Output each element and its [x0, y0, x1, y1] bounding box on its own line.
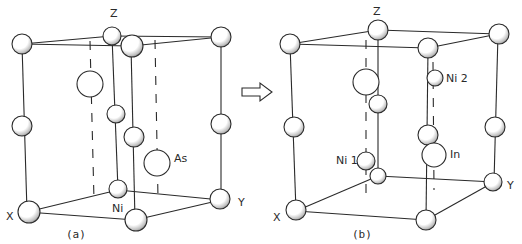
atom-a-top-left — [12, 34, 32, 54]
atom-b-bottom-left — [286, 200, 306, 220]
atom-b-mid-back — [369, 95, 387, 113]
atom-b-ni2 — [427, 70, 443, 86]
panel-a: Z X Y Ni As (a) — [6, 7, 245, 241]
atom-b-mid-right — [485, 117, 505, 137]
atom-b-open-upper — [353, 69, 379, 95]
atom-b-ni1 — [357, 152, 375, 170]
atom-a-bottom-left — [18, 201, 40, 223]
axis-label-y-b: Y — [506, 179, 514, 192]
crystal-structure-figure: Z X Y Ni As (a) — [0, 0, 522, 244]
atom-label-ni2-b: Ni 2 — [446, 72, 468, 85]
caption-b: (b) — [352, 228, 372, 241]
atom-label-in-b: In — [450, 148, 460, 161]
axis-label-y-a: Y — [237, 196, 245, 209]
panel-b: Z X Y Ni 2 Ni 1 In (b) — [273, 5, 514, 241]
atom-label-as-a: As — [174, 152, 188, 165]
atom-a-ni — [109, 180, 127, 198]
atom-a-mid-right — [211, 114, 231, 134]
atom-a-top-front — [121, 35, 143, 57]
atom-a-as — [144, 150, 170, 176]
atom-b-in — [422, 143, 446, 167]
atom-a-mid-left — [12, 116, 32, 136]
atom-b-top-back — [368, 20, 388, 40]
atom-a-bottom-right — [210, 189, 230, 209]
atom-b-top-right — [489, 24, 509, 44]
atom-a-top-back — [103, 27, 121, 45]
atom-b-mid-front — [418, 125, 438, 145]
axis-label-x-a: X — [6, 210, 14, 223]
atom-b-bottom-right — [484, 173, 502, 191]
atom-b-top-front — [418, 38, 438, 58]
axis-label-z-b: Z — [373, 5, 381, 18]
atom-b-bottom-back — [370, 168, 386, 184]
atom-label-ni1-b: Ni 1 — [336, 154, 358, 167]
atom-a-bottom-front — [125, 209, 147, 231]
atom-a-as-upper — [77, 71, 103, 97]
atom-b-mid-left — [284, 117, 304, 137]
atom-b-top-left — [280, 34, 300, 54]
atom-a-top-right — [211, 27, 231, 47]
atom-a-mid-front — [124, 127, 144, 147]
caption-a: (a) — [66, 228, 86, 241]
axis-label-z-a: Z — [110, 7, 118, 20]
atom-a-mid-back — [107, 105, 125, 123]
right-arrow-icon — [242, 83, 272, 101]
atom-label-ni-a: Ni — [112, 202, 123, 215]
axis-label-x-b: X — [273, 211, 281, 224]
atom-b-bottom-front — [416, 210, 436, 230]
